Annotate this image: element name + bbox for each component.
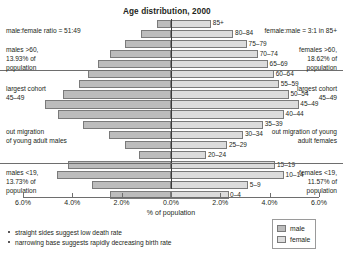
- bar-male: [141, 30, 171, 38]
- bar-female: [171, 100, 299, 108]
- bar-female: [171, 110, 284, 118]
- females-over-60: females >60, 18.62% of population: [299, 45, 337, 73]
- chart-legend: male female: [272, 219, 316, 249]
- bar-male: [58, 110, 170, 118]
- bar-female: [171, 151, 207, 159]
- legend-label-female: female: [290, 236, 310, 243]
- axis-tick: [270, 193, 271, 197]
- largest-cohort-right: largest cohort 45–49: [297, 84, 337, 102]
- bar-female: [171, 80, 279, 88]
- bar-male: [125, 40, 171, 48]
- footnote-bullets: straight sides suggest low death ratenar…: [7, 228, 172, 248]
- legend-swatch-female: [277, 236, 286, 244]
- axis-tick-label: 0.0%: [163, 199, 179, 206]
- bar-male: [98, 60, 171, 68]
- x-axis-line: [23, 197, 319, 198]
- separator-rule-lower: [0, 163, 343, 164]
- bar-female: [171, 141, 228, 149]
- bar-female: [171, 20, 212, 28]
- bullet-dot-icon: [8, 241, 10, 243]
- x-axis-label: % of population: [147, 209, 195, 216]
- footnote-bullet-text: straight sides suggest low death rate: [15, 229, 122, 236]
- age-group-label: 85+: [211, 19, 224, 28]
- age-group-label: 65–69: [268, 60, 288, 69]
- bar-female: [171, 40, 247, 48]
- largest-cohort-left: largest cohort 45–49: [6, 84, 46, 102]
- age-group-label: 0–4: [229, 191, 241, 200]
- age-group-label: 25–29: [227, 141, 247, 150]
- male-female-ratio: male:female ratio = 51:49: [6, 26, 81, 35]
- bar-male: [139, 151, 171, 159]
- age-group-label: 60–64: [274, 70, 294, 79]
- separator-rule-upper: [0, 70, 343, 71]
- axis-tick: [122, 193, 123, 197]
- legend-swatch-male: [277, 225, 286, 233]
- bar-female: [171, 131, 244, 139]
- bar-female: [171, 90, 289, 98]
- legend-item-male: male: [277, 223, 310, 234]
- age-group-label: 55–59: [279, 80, 299, 89]
- bar-male: [57, 171, 170, 179]
- bar-male: [45, 100, 171, 108]
- bar-female: [171, 171, 284, 179]
- population-pyramid-figure: Age distribution, 2000 85+80–8475–7970–7…: [0, 0, 343, 257]
- axis-tick-label: 4.0%: [64, 199, 80, 206]
- males-under-19: males <19, 13.73% of population: [6, 168, 38, 196]
- females-under-19: females <19, 11.57% of population: [299, 168, 337, 196]
- legend-item-female: female: [277, 234, 310, 245]
- males-over-60: males >60, 13.93% of population: [6, 45, 38, 73]
- bar-male: [110, 50, 170, 58]
- axis-tick: [72, 193, 73, 197]
- female-male-ratio-85plus: female:male = 3:1 in 85+: [264, 26, 337, 35]
- age-group-label: 40–44: [284, 110, 304, 119]
- legend-label-male: male: [290, 225, 305, 232]
- center-axis-line: [171, 19, 172, 189]
- footnote-bullet: narrowing base suggests rapidly decreasi…: [7, 238, 172, 248]
- out-migration-males: out migration of young adult males: [6, 127, 67, 145]
- bar-male: [63, 90, 170, 98]
- out-migration-females: out migration of young adult females: [272, 127, 337, 145]
- axis-tick-label: 4.0%: [262, 199, 278, 206]
- bar-female: [171, 50, 259, 58]
- bar-male: [92, 181, 171, 189]
- bar-female: [171, 121, 263, 129]
- bar-male: [83, 121, 171, 129]
- bar-male: [157, 20, 171, 28]
- age-group-label: 30–34: [243, 130, 263, 139]
- axis-tick: [171, 193, 172, 197]
- bar-male: [125, 141, 171, 149]
- bar-female: [171, 60, 268, 68]
- axis-tick-label: 6.0%: [15, 199, 31, 206]
- bar-female: [171, 70, 275, 78]
- age-group-label: 70–74: [258, 50, 278, 59]
- bar-female: [171, 30, 234, 38]
- age-group-label: 80–84: [233, 29, 253, 38]
- age-group-label: 75–79: [247, 40, 267, 49]
- chart-title: Age distribution, 2000: [123, 7, 211, 16]
- axis-tick-label: 2.0%: [114, 199, 130, 206]
- age-group-label: 20–24: [206, 151, 226, 160]
- axis-tick-label: 2.0%: [212, 199, 228, 206]
- footnote-bullet: straight sides suggest low death rate: [7, 228, 172, 238]
- age-group-label: 5–9: [248, 181, 260, 190]
- bar-female: [171, 181, 249, 189]
- axis-tick-label: 6.0%: [311, 199, 327, 206]
- bar-male: [79, 80, 170, 88]
- bar-male: [88, 70, 171, 78]
- footnote-bullet-text: narrowing base suggests rapidly decreasi…: [15, 239, 172, 246]
- bar-male: [109, 131, 171, 139]
- axis-tick: [220, 193, 221, 197]
- bullet-dot-icon: [8, 231, 10, 233]
